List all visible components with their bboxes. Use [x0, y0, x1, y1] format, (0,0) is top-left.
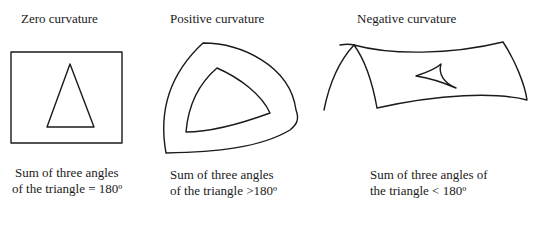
negative-caption-line-1: Sum of three angles of — [370, 167, 488, 183]
zero-curvature-figure — [11, 52, 122, 143]
zero-caption-line-2: of the triangle = 180º — [12, 181, 122, 197]
figure-caption-cutoff: ▬▬▬ ▬▬▬ — [228, 209, 308, 217]
figure-caption-fragment: ▬▬▬ ▬▬▬ — [228, 212, 308, 217]
positive-curvature-figure — [164, 43, 298, 153]
sphere-patch — [164, 43, 298, 153]
zero-caption-line-1: Sum of three angles — [12, 165, 122, 181]
hyperbolic-triangle — [416, 64, 456, 88]
zero-curvature-caption: Sum of three angles of the triangle = 18… — [12, 165, 122, 197]
positive-caption-line-2: of the triangle >180º — [170, 183, 277, 199]
negative-curvature-caption: Sum of three angles of the triangle < 18… — [370, 167, 488, 199]
saddle-surface — [354, 42, 527, 108]
positive-curvature-caption: Sum of three angles of the triangle >180… — [170, 167, 277, 199]
negative-curvature-figure — [324, 42, 527, 110]
flat-plane — [11, 52, 122, 143]
spherical-triangle — [186, 68, 270, 132]
positive-caption-line-1: Sum of three angles — [170, 167, 277, 183]
negative-caption-line-2: the triangle < 180º — [370, 183, 488, 199]
flat-triangle — [47, 64, 94, 127]
saddle-left-edge — [324, 45, 354, 110]
saddle-top-left-edge — [340, 44, 354, 45]
